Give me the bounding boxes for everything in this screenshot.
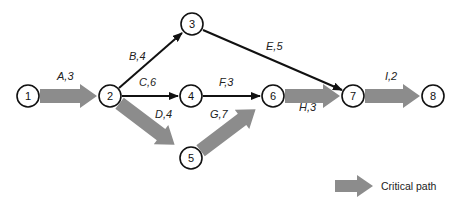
svg-text:5: 5 [188,152,194,164]
svg-text:1: 1 [25,90,31,102]
arrow-I [365,84,420,108]
label-D: D,4 [155,108,172,120]
svg-text:8: 8 [430,90,436,102]
svg-text:4: 4 [188,90,194,102]
node-6: 6 [262,85,284,107]
network-diagram: 1 2 3 4 5 6 7 8 A,3 B,4 C,6 D,4 E,5 F,3 … [0,0,457,209]
node-3: 3 [181,13,203,35]
label-E: E,5 [266,40,283,52]
node-8: 8 [422,85,444,107]
legend-label: Critical path [381,180,437,192]
node-7: 7 [342,85,364,107]
node-2: 2 [99,85,121,107]
svg-text:7: 7 [350,90,356,102]
label-I: I,2 [385,70,397,82]
label-G: G,7 [210,108,229,120]
arrow-D [112,94,182,155]
arrow-A [40,84,97,108]
label-C: C,6 [139,76,157,88]
svg-text:2: 2 [107,90,113,102]
svg-text:6: 6 [270,90,276,102]
legend: Critical path [335,175,437,197]
node-1: 1 [17,85,39,107]
activity-labels: A,3 B,4 C,6 D,4 E,5 F,3 G,7 H,3 I,2 [56,40,397,120]
node-5: 5 [180,147,202,169]
label-H: H,3 [299,101,317,113]
label-B: B,4 [129,50,146,62]
arrow-G [193,100,263,161]
label-A: A,3 [56,70,74,82]
node-4: 4 [180,85,202,107]
svg-text:3: 3 [189,18,195,30]
label-F: F,3 [219,76,234,88]
critical-path-legend-icon [335,175,373,197]
